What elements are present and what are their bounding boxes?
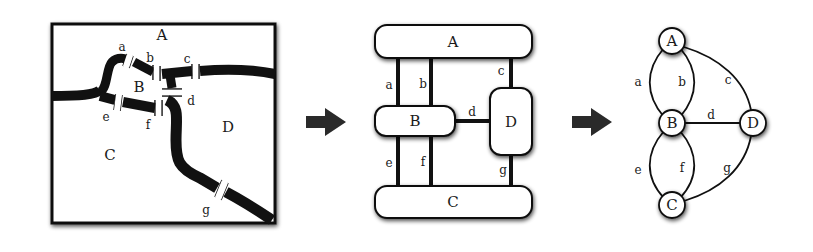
bridge-label-a: a <box>118 40 125 54</box>
graph-edge-label-e: e <box>634 163 641 177</box>
bridge-label-e: e <box>102 110 109 124</box>
graph-edge-label-c: c <box>725 73 732 87</box>
graph-label-a: A <box>666 32 678 50</box>
graph-edge-e <box>650 131 664 198</box>
schematic-edge-label-g: g <box>499 163 507 177</box>
graph-edge-a <box>650 48 664 117</box>
region-label-b: B <box>133 78 144 96</box>
bridge-label-d: d <box>187 94 195 108</box>
schematic-edge-label-d: d <box>468 105 476 119</box>
graph-label-b: B <box>666 114 677 132</box>
konigsberg-diagram: A B C D a b c d e f g <box>0 0 813 252</box>
region-label-d: D <box>222 118 234 136</box>
schematic-label-a: A <box>447 33 459 51</box>
schematic-label-b: B <box>409 112 420 130</box>
schematic-panel: A B C D a b c d e f g <box>375 25 532 218</box>
graph-edge-label-f: f <box>680 161 686 175</box>
schematic-edge-label-e: e <box>385 156 392 170</box>
map-panel: A B C D a b c d e f g <box>52 24 275 223</box>
bridge-label-b: b <box>146 51 154 65</box>
schematic-edge-label-a: a <box>385 78 392 92</box>
right-arrow-icon <box>572 108 612 136</box>
graph-edge-label-d: d <box>707 108 715 122</box>
graph-label-c: C <box>666 196 677 214</box>
bridge-label-c: c <box>184 52 191 66</box>
bridge-label-g: g <box>202 203 210 217</box>
schematic-label-c: C <box>447 193 458 211</box>
graph-edge-label-g: g <box>723 161 731 175</box>
graph-edge-label-a: a <box>634 75 641 89</box>
map-frame <box>52 24 275 223</box>
right-arrow-icon <box>306 108 346 136</box>
graph-panel: A B C D a b c d e f g <box>634 28 766 218</box>
graph-label-d: D <box>747 114 759 132</box>
schematic-label-d: D <box>505 113 517 131</box>
schematic-edge-label-f: f <box>421 155 427 169</box>
schematic-edge-label-c: c <box>498 64 505 78</box>
region-label-c: C <box>104 146 115 164</box>
graph-edge-label-b: b <box>678 75 686 89</box>
schematic-edge-label-b: b <box>419 77 427 91</box>
region-label-a: A <box>156 26 168 44</box>
